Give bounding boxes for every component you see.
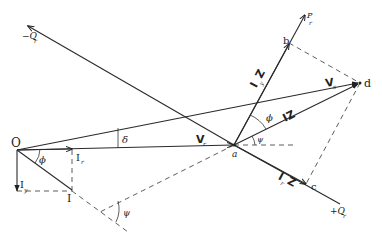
psi-arc-lower <box>116 201 119 222</box>
phi-origin-label: ϕ <box>39 154 46 165</box>
svg-text:Z: Z <box>253 67 268 80</box>
iz-vector <box>234 84 358 145</box>
psi-lower-label: ψ <box>123 208 131 218</box>
iz-label: IZ <box>280 108 297 125</box>
ir-label: I r <box>76 152 85 165</box>
svg-text:r: r <box>343 212 347 219</box>
svg-text:r: r <box>34 37 38 44</box>
vs-vector <box>17 83 358 150</box>
svg-text:y: y <box>23 186 28 194</box>
svg-text:s: s <box>333 83 336 90</box>
pos-qr-axis-label: +Q r <box>330 206 347 219</box>
svg-text:r: r <box>309 19 313 26</box>
point-o-label: O <box>11 136 21 150</box>
psi-arc-a <box>252 136 255 145</box>
neg-qr-axis-label: −Q r <box>22 31 38 44</box>
phi-a-label: ϕ <box>266 112 273 123</box>
point-c-label: c <box>311 181 317 192</box>
vr-label: V r <box>196 133 207 147</box>
svg-text:Z: Z <box>285 175 298 190</box>
point-a-label: a <box>232 149 237 159</box>
svg-text:I: I <box>76 152 80 163</box>
delta-label: δ <box>122 134 128 145</box>
pr-axis-label: P r <box>306 11 313 26</box>
svg-text:r: r <box>81 158 85 165</box>
ir-vector <box>17 149 72 150</box>
point-b-label: b <box>283 35 289 46</box>
point-i-label: I <box>67 192 71 205</box>
iy-label: I y <box>20 179 28 194</box>
point-d-dot <box>359 82 362 85</box>
dash-d-c <box>306 83 360 184</box>
point-a-dot <box>233 144 236 147</box>
dash-i-extension <box>72 191 128 232</box>
iyz-vector <box>234 44 289 145</box>
iyz-label: I y Z <box>248 67 271 91</box>
vs-label: V s <box>324 76 336 90</box>
dash-a-lower <box>100 145 234 212</box>
phasor-diagram: O a b c d I P r −Q r +Q r V r V s IZ I y… <box>0 0 382 242</box>
phi-arc-a <box>250 115 266 129</box>
psi-a-label: ψ <box>257 135 264 144</box>
point-d-label: d <box>364 77 371 90</box>
